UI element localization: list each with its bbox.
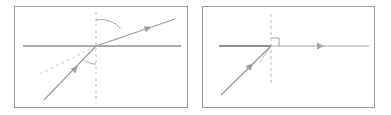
outgoing-ray-arrowhead — [317, 43, 325, 50]
incidence-angle-arc — [83, 59, 96, 64]
refraction-right-angle-panel — [202, 6, 375, 108]
refraction-angle-arc — [96, 20, 121, 29]
figure-root — [0, 0, 391, 115]
incident-extension-dashed-line — [38, 46, 96, 75]
incident-ray-arrowhead — [71, 64, 80, 73]
right-panel-canvas — [203, 7, 374, 107]
incident-ray — [44, 46, 96, 100]
refracted-ray — [96, 19, 175, 46]
right-angle-marker — [271, 38, 279, 46]
refracted-ray-arrowhead — [144, 24, 153, 32]
left-panel-canvas — [15, 7, 187, 107]
incident-ray — [221, 46, 271, 95]
refraction-with-angles-panel — [14, 6, 188, 108]
